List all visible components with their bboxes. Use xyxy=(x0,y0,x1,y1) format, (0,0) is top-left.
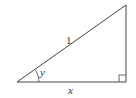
hypotenuse-label: 1 xyxy=(66,34,72,46)
right-triangle-diagram: 1 y x xyxy=(0,0,136,98)
triangle xyxy=(17,5,126,82)
base-label: x xyxy=(67,84,73,96)
right-angle-marker xyxy=(119,75,126,82)
angle-label: y xyxy=(39,66,45,78)
angle-arc xyxy=(36,70,40,82)
